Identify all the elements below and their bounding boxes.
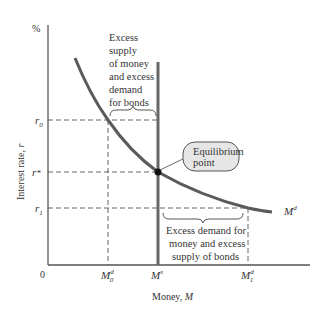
tick-ms: Ms	[150, 268, 163, 281]
money-market-chart: Equilibrium point Excess supply of money…	[0, 0, 324, 315]
bottom-annotation: Excess demand for money and excess suppl…	[166, 225, 246, 262]
svg-text:of money: of money	[109, 58, 150, 69]
svg-text:Excess demand for: Excess demand for	[166, 225, 246, 236]
svg-text:and excess: and excess	[109, 71, 154, 82]
tick-m1d: Md1	[240, 268, 254, 284]
x-axis-title: Money, M	[152, 291, 194, 302]
svg-text:supply of bonds: supply of bonds	[172, 251, 239, 262]
tick-r1: r1	[35, 202, 43, 217]
percent-label: %	[32, 23, 40, 34]
md-label: Md	[283, 204, 297, 217]
tick-rstar: r*	[32, 166, 41, 178]
tick-r0: r0	[35, 114, 43, 129]
svg-text:Excess: Excess	[109, 32, 138, 43]
equilibrium-label-1: Equilibrium	[193, 146, 244, 157]
svg-text:demand: demand	[109, 84, 143, 95]
y-axis-title: Interest rate, r	[15, 144, 26, 200]
origin-label: 0	[40, 269, 45, 280]
bottom-brace	[163, 213, 243, 223]
svg-text:for bonds: for bonds	[109, 97, 149, 108]
callout-leader	[160, 158, 185, 170]
svg-text:supply: supply	[109, 45, 138, 56]
money-demand-curve	[75, 58, 272, 212]
top-annotation: Excess supply of money and excess demand…	[109, 32, 154, 108]
svg-text:money and excess: money and excess	[169, 238, 245, 249]
tick-m0d: Md0	[100, 268, 114, 284]
equilibrium-label-2: point	[193, 157, 215, 168]
